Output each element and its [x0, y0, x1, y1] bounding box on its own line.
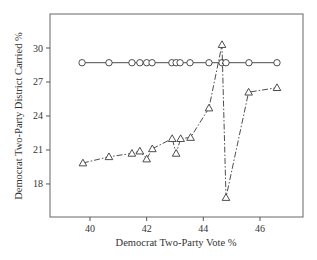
triangle-marker [187, 134, 195, 141]
y-tick-label: 18 [33, 178, 43, 189]
triangle-marker [149, 145, 157, 152]
circle-marker [177, 60, 183, 66]
y-tick-label: 24 [33, 110, 43, 121]
x-tick-label: 42 [142, 223, 152, 234]
triangle-marker [128, 150, 136, 157]
circle-marker [223, 60, 229, 66]
x-axis-title: Democrat Two-Party Vote % [116, 237, 237, 248]
triangle-marker [143, 155, 151, 162]
triangle-marker [205, 104, 213, 111]
triangle-marker [177, 135, 185, 142]
triangle-marker [136, 147, 144, 154]
y-tick-label: 30 [33, 43, 43, 54]
y-tick-label: 27 [33, 76, 43, 87]
circle-marker [246, 60, 252, 66]
triangle-marker [273, 84, 281, 91]
x-tick-label: 44 [198, 223, 208, 234]
y-axis-title: Democrat Two-Party District Carried % [13, 32, 24, 200]
x-tick-label: 40 [85, 223, 95, 234]
circle-marker [129, 60, 135, 66]
circle-marker [187, 60, 193, 66]
plot-frame [50, 14, 303, 217]
circle-marker [106, 60, 112, 66]
circle-marker [79, 60, 85, 66]
x-axis: 40424446 [85, 217, 265, 234]
triangle-marker [218, 41, 226, 48]
triangle-marker [168, 135, 176, 142]
scatter-line-chart: 1821242730 40424446 Democrat Two-Party V… [0, 0, 317, 260]
triangle-marker [105, 153, 113, 160]
y-axis: 1821242730 [33, 43, 50, 190]
series-layer [79, 41, 281, 201]
circle-marker [149, 60, 155, 66]
x-tick-label: 46 [255, 223, 265, 234]
triangle-marker [172, 150, 180, 157]
circle-marker [137, 60, 143, 66]
triangle-marker [222, 194, 230, 201]
y-tick-label: 21 [33, 144, 43, 155]
triangles-dashdot-line [83, 45, 277, 198]
circle-marker [206, 60, 212, 66]
circle-marker [274, 60, 280, 66]
